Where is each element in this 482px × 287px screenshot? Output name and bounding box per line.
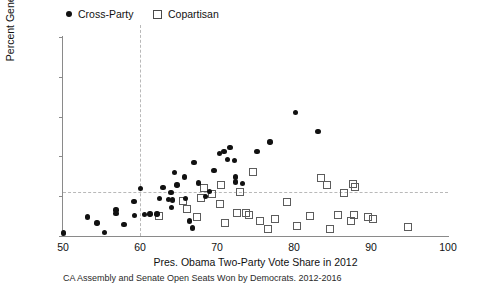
- data-point-cross-party: [182, 174, 187, 179]
- x-axis-title: Pres. Obama Two-Party Vote Share in 2012: [63, 256, 448, 268]
- y-axis-line: [62, 36, 63, 237]
- data-point-copartisan: [245, 211, 253, 219]
- data-point-copartisan: [350, 211, 358, 219]
- data-point-cross-party: [94, 220, 99, 225]
- x-tick-label: 90: [351, 242, 391, 253]
- data-point-cross-party: [232, 158, 237, 163]
- x-tick-label: 60: [120, 242, 160, 253]
- data-point-copartisan: [193, 213, 201, 221]
- data-point-copartisan: [264, 225, 272, 233]
- data-point-cross-party: [157, 196, 162, 201]
- data-point-copartisan: [233, 209, 241, 217]
- data-point-copartisan: [369, 215, 377, 223]
- data-point-copartisan: [271, 215, 279, 223]
- data-point-copartisan: [340, 189, 348, 197]
- data-point-copartisan: [183, 205, 191, 213]
- y-tick-mark: [59, 196, 63, 197]
- data-point-copartisan: [334, 211, 342, 219]
- data-point-cross-party: [168, 190, 173, 195]
- legend-label-cross-party: Cross-Party: [78, 8, 133, 20]
- data-point-copartisan: [404, 223, 412, 231]
- open-square-icon: [153, 10, 162, 19]
- y-axis-title-wrap: Percent General Vote: [16, 37, 30, 236]
- data-point-cross-party: [160, 185, 165, 190]
- data-point-copartisan: [221, 219, 229, 227]
- data-point-cross-party: [187, 218, 192, 223]
- x-tick-label: 80: [274, 242, 314, 253]
- data-point-cross-party: [132, 213, 137, 218]
- data-point-cross-party: [190, 225, 195, 230]
- data-point-cross-party: [102, 230, 107, 235]
- y-tick-mark: [59, 37, 63, 38]
- chart-legend: Cross-Party Copartisan: [0, 6, 482, 24]
- data-point-copartisan: [236, 188, 244, 196]
- data-point-cross-party: [267, 139, 272, 144]
- plot-area: 5060708090100 5060708090100: [63, 37, 448, 236]
- data-point-cross-party: [174, 182, 179, 187]
- data-point-copartisan: [283, 198, 291, 206]
- data-point-copartisan: [249, 168, 257, 176]
- data-point-cross-party: [196, 180, 201, 185]
- y-tick-mark: [59, 117, 63, 118]
- data-point-cross-party: [154, 211, 159, 216]
- data-point-cross-party: [138, 186, 143, 191]
- data-point-cross-party: [293, 110, 298, 115]
- data-point-cross-party: [227, 145, 232, 150]
- x-tick-label: 50: [43, 242, 83, 253]
- data-point-copartisan: [351, 183, 359, 191]
- filled-circle-icon: [66, 11, 72, 17]
- data-point-cross-party: [254, 149, 259, 154]
- data-point-copartisan: [216, 200, 224, 208]
- scatter-plot-figure: Cross-Party Copartisan Percent General V…: [0, 0, 482, 287]
- data-point-cross-party: [131, 199, 136, 204]
- y-axis-title: Percent General Vote: [4, 0, 16, 81]
- x-tick-label: 100: [428, 242, 468, 253]
- legend-label-copartisan: Copartisan: [168, 8, 219, 20]
- data-point-cross-party: [221, 149, 226, 154]
- legend-item-copartisan: Copartisan: [153, 8, 219, 20]
- data-point-cross-party: [211, 168, 216, 173]
- data-point-cross-party: [183, 196, 188, 201]
- vertical-reference-line: [140, 25, 141, 236]
- data-point-copartisan: [306, 212, 314, 220]
- x-axis-line: [62, 236, 449, 237]
- data-point-cross-party: [207, 189, 212, 194]
- data-point-copartisan: [326, 225, 334, 233]
- data-point-cross-party: [85, 214, 90, 219]
- data-point-cross-party: [240, 181, 245, 186]
- data-point-copartisan: [293, 222, 301, 230]
- y-tick-mark: [59, 77, 63, 78]
- data-point-cross-party: [61, 230, 66, 235]
- data-point-copartisan: [256, 217, 264, 225]
- data-point-copartisan: [217, 181, 225, 189]
- data-point-cross-party: [315, 129, 320, 134]
- chart-caption: CA Assembly and Senate Open Seats Won by…: [63, 273, 482, 283]
- data-point-cross-party: [225, 157, 230, 162]
- horizontal-reference-line: [63, 192, 448, 193]
- data-point-cross-party: [169, 205, 174, 210]
- data-point-cross-party: [121, 222, 126, 227]
- data-point-cross-party: [113, 211, 118, 216]
- data-point-cross-party: [172, 170, 177, 175]
- data-point-cross-party: [191, 160, 196, 165]
- data-point-cross-party: [147, 211, 152, 216]
- x-tick-label: 70: [197, 242, 237, 253]
- data-point-copartisan: [323, 181, 331, 189]
- data-point-cross-party: [203, 194, 208, 199]
- y-tick-mark: [59, 156, 63, 157]
- data-point-cross-party: [170, 197, 175, 202]
- y-tick-mark: [59, 236, 63, 237]
- legend-item-cross-party: Cross-Party: [66, 8, 133, 20]
- data-point-cross-party: [233, 179, 238, 184]
